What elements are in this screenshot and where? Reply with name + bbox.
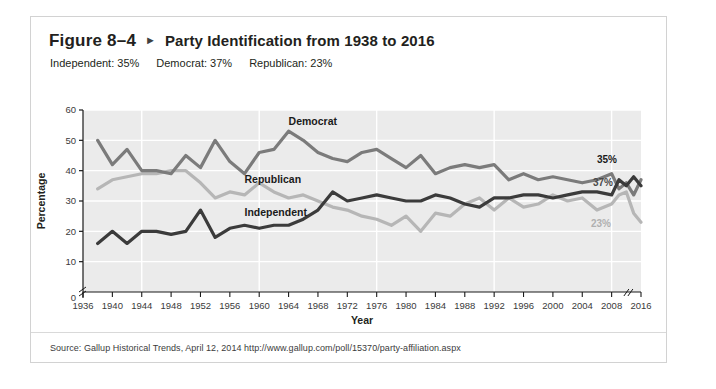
x-tick-label: 1940	[102, 300, 123, 311]
source-divider	[31, 332, 666, 333]
figure-number: Figure 8–4	[49, 31, 136, 51]
x-axis-title: Year	[351, 314, 373, 326]
summary-independent: Independent: 35%	[50, 57, 139, 69]
y-tick-label: 20	[65, 226, 76, 237]
end-label-democrat: 37%	[593, 177, 613, 188]
chart-svg: 0102030405060193619401944194819521956196…	[31, 77, 668, 327]
y-tick-label: 60	[65, 104, 76, 115]
y-tick-label: 10	[65, 256, 76, 267]
x-tick-label: 1944	[131, 300, 152, 311]
x-tick-label: 2008	[601, 300, 622, 311]
y-axis-title: Percentage	[35, 173, 47, 230]
x-tick-label: 1964	[278, 300, 299, 311]
x-tick-label: 2000	[542, 300, 563, 311]
x-tick-label: 1948	[161, 300, 182, 311]
figure-header: Figure 8–4 ► Party Identification from 1…	[49, 31, 435, 51]
summary-democrat: Democrat: 37%	[156, 57, 232, 69]
line-chart: 0102030405060193619401944194819521956196…	[31, 77, 668, 327]
x-tick-label: 2016	[630, 300, 651, 311]
x-tick-label: 1996	[513, 300, 534, 311]
x-tick-label: 1984	[425, 300, 446, 311]
source-note: Source: Gallup Historical Trends, April …	[50, 343, 461, 353]
x-tick-label: 1972	[337, 300, 358, 311]
x-tick-label: 1976	[366, 300, 387, 311]
summary-republican: Republican: 23%	[249, 57, 332, 69]
x-tick-label: 1992	[484, 300, 505, 311]
x-tick-label: 1988	[454, 300, 475, 311]
series-label-democrat: Democrat	[289, 115, 338, 127]
end-label-independent: 35%	[597, 154, 617, 165]
series-label-republican: Republican	[245, 173, 302, 185]
x-tick-label: 1968	[307, 300, 328, 311]
figure-title: Party Identification from 1938 to 2016	[165, 32, 435, 49]
x-tick-label: 1960	[249, 300, 270, 311]
y-tick-label: 50	[65, 135, 76, 146]
figure-summary: Independent: 35% Democrat: 37% Republica…	[50, 57, 332, 69]
series-label-independent: Independent	[245, 206, 308, 218]
triangle-right-icon: ►	[145, 34, 156, 46]
end-label-republican: 23%	[591, 218, 611, 229]
x-tick-label: 1936	[72, 300, 93, 311]
figure-card: Figure 8–4 ► Party Identification from 1…	[30, 16, 667, 363]
y-tick-label: 30	[65, 195, 76, 206]
x-tick-label: 1952	[190, 300, 211, 311]
x-tick-label: 1956	[219, 300, 240, 311]
y-tick-label: 40	[65, 165, 76, 176]
x-tick-label: 1980	[395, 300, 416, 311]
x-tick-label: 2004	[572, 300, 593, 311]
